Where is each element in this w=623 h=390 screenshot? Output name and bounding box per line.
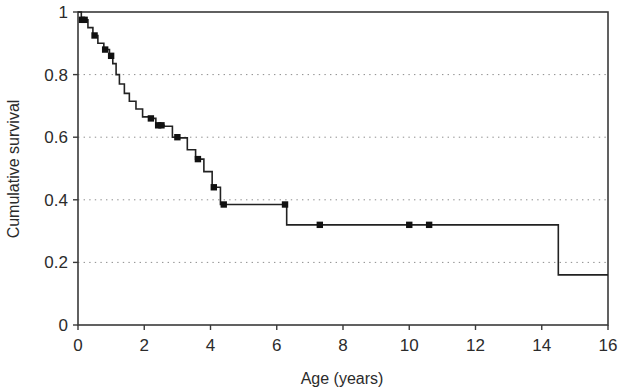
x-tick-label: 8 bbox=[338, 336, 347, 355]
x-tick-label: 6 bbox=[272, 336, 281, 355]
x-axis-title: Age (years) bbox=[301, 370, 384, 387]
x-tick-label: 12 bbox=[466, 336, 485, 355]
censor-mark bbox=[148, 115, 154, 121]
censor-mark bbox=[81, 17, 87, 23]
censor-mark bbox=[102, 46, 108, 52]
x-tick-label: 14 bbox=[532, 336, 551, 355]
y-axis-title: Cumulative survival bbox=[5, 100, 22, 239]
censor-mark bbox=[211, 184, 217, 190]
survival-chart-figure: 0246810121416 00.20.40.60.81 Age (years)… bbox=[0, 0, 623, 390]
y-tick-label: 0.2 bbox=[44, 253, 68, 272]
censor-mark bbox=[282, 201, 288, 207]
y-tick-label: 1 bbox=[59, 3, 68, 22]
x-tick-label: 2 bbox=[140, 336, 149, 355]
censor-mark bbox=[317, 222, 323, 228]
y-tick-label: 0 bbox=[59, 316, 68, 335]
x-tick-label: 10 bbox=[400, 336, 419, 355]
censor-mark bbox=[426, 222, 432, 228]
y-tick-label: 0.4 bbox=[44, 191, 68, 210]
censor-mark bbox=[108, 53, 114, 59]
y-tick-label: 0.6 bbox=[44, 128, 68, 147]
censor-mark bbox=[221, 201, 227, 207]
x-tick-label: 0 bbox=[73, 336, 82, 355]
y-tick-label: 0.8 bbox=[44, 66, 68, 85]
censor-mark bbox=[158, 122, 164, 128]
censor-mark bbox=[174, 134, 180, 140]
censor-mark bbox=[406, 222, 412, 228]
chart-canvas: 0246810121416 00.20.40.60.81 Age (years)… bbox=[0, 0, 623, 390]
x-tick-label: 4 bbox=[206, 336, 215, 355]
censor-mark bbox=[195, 156, 201, 162]
chart-background bbox=[0, 0, 623, 390]
censor-mark bbox=[91, 32, 97, 38]
x-tick-label: 16 bbox=[599, 336, 618, 355]
